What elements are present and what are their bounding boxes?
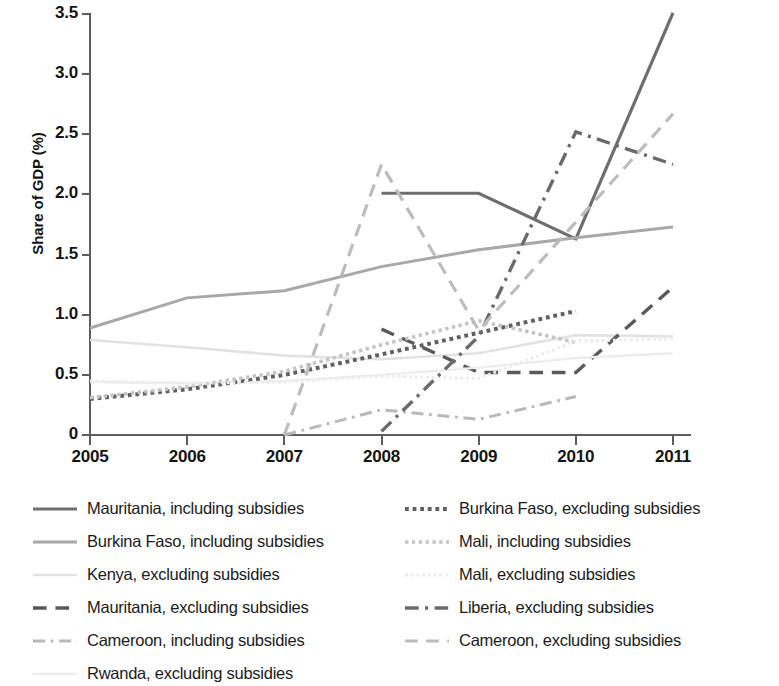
legend-item-label: Mali, excluding subsidies — [459, 565, 635, 584]
legend-item[interactable]: Mauritania, including subsidies — [32, 492, 404, 525]
legend-item[interactable]: Rwanda, excluding subsidies — [32, 657, 404, 686]
legend-item-label: Kenya, excluding subsidies — [87, 565, 280, 584]
legend-item-label: Mauritania, excluding subsidies — [87, 598, 309, 617]
dotted-gray-line-icon — [404, 535, 450, 549]
legend-item[interactable]: Mali, including subsidies — [404, 525, 768, 558]
legend-item[interactable]: Cameroon, excluding subsidies — [404, 624, 768, 657]
legend-item[interactable]: Burkina Faso, including subsidies — [32, 525, 404, 558]
legend-item-label: Liberia, excluding subsidies — [459, 598, 654, 617]
solid-lightgray-line-icon — [32, 568, 78, 582]
dashed-gray-line-icon — [404, 634, 450, 648]
legend-item-label: Mali, including subsidies — [459, 532, 631, 551]
legend-item-label: Cameroon, excluding subsidies — [459, 631, 681, 650]
series-line — [90, 321, 576, 398]
solid-faint-line-icon — [32, 667, 78, 681]
solid-gray-line-icon — [32, 535, 78, 549]
dashed-dark-line-icon — [32, 601, 78, 615]
series-line — [382, 13, 674, 239]
series-line — [90, 353, 673, 383]
legend-item[interactable]: Burkina Faso, excluding subsidies — [404, 492, 768, 525]
legend-item-label: Cameroon, including subsidies — [87, 631, 304, 650]
dashdot-gray-line-icon — [32, 634, 78, 648]
legend-item-label: Burkina Faso, including subsidies — [87, 532, 324, 551]
series-line — [284, 114, 673, 435]
solid-dark-line-icon — [32, 502, 78, 516]
series-line — [90, 335, 673, 359]
legend-item[interactable]: Kenya, excluding subsidies — [32, 558, 404, 591]
chart-plot — [0, 0, 779, 470]
legend-item[interactable]: Mauritania, excluding subsidies — [32, 591, 404, 624]
legend-item[interactable]: Mali, excluding subsidies — [404, 558, 768, 591]
legend-item[interactable]: Liberia, excluding subsidies — [404, 591, 768, 624]
legend-item-label: Burkina Faso, excluding subsidies — [459, 499, 700, 518]
series-line — [90, 227, 673, 328]
legend-item-label: Rwanda, excluding subsidies — [87, 664, 293, 683]
legend-item[interactable]: Cameroon, including subsidies — [32, 624, 404, 657]
chart-legend: Mauritania, including subsidiesBurkina F… — [32, 492, 768, 686]
series-line — [382, 132, 674, 432]
legend-item-label: Mauritania, including subsidies — [87, 499, 304, 518]
dashdot-dark-line-icon — [404, 601, 450, 615]
dotted-dark-line-icon — [404, 502, 450, 516]
series-line — [284, 397, 576, 435]
dotted-lightgray-line-icon — [404, 568, 450, 582]
series-line — [90, 311, 576, 399]
